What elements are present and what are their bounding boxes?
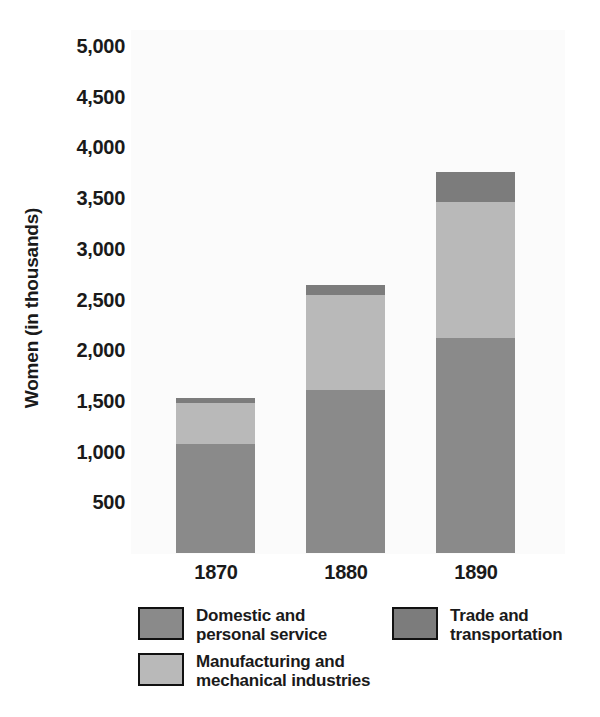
bar-segment bbox=[436, 202, 515, 338]
y-axis-tick-labels: 5,000 4,500 4,000 3,500 3,000 2,500 2,00… bbox=[40, 0, 125, 717]
bar-segment bbox=[176, 403, 255, 444]
legend-swatch-icon bbox=[138, 607, 184, 640]
bar-1870[interactable] bbox=[176, 398, 255, 553]
x-tick-label-1870: 1870 bbox=[146, 561, 286, 584]
plot-area bbox=[131, 30, 565, 554]
bar-segment bbox=[176, 398, 255, 403]
bar-segment bbox=[436, 338, 515, 553]
bar-segment bbox=[306, 390, 385, 553]
y-tick-label: 5,000 bbox=[40, 36, 125, 56]
y-tick-label: 1,500 bbox=[40, 391, 125, 411]
legend-item-domestic-and-personal-service[interactable]: Domestic and personal service bbox=[138, 606, 327, 644]
bar-segment bbox=[306, 285, 385, 295]
legend-swatch-icon bbox=[138, 653, 184, 686]
legend-item-manufacturing-and-mechanical-industries[interactable]: Manufacturing and mechanical industries bbox=[138, 652, 370, 690]
y-tick-label: 4,000 bbox=[40, 137, 125, 157]
y-tick-label: 4,500 bbox=[40, 87, 125, 107]
bar-segment bbox=[176, 444, 255, 553]
y-tick-label: 2,000 bbox=[40, 340, 125, 360]
y-tick-label: 3,500 bbox=[40, 188, 125, 208]
stacked-bar-chart: Women (in thousands) 5,000 4,500 4,000 3… bbox=[0, 0, 600, 717]
y-tick-label: 3,000 bbox=[40, 239, 125, 259]
bar-segment bbox=[436, 172, 515, 202]
legend-label: Manufacturing and mechanical industries bbox=[196, 652, 370, 690]
legend-swatch-icon bbox=[392, 607, 438, 640]
bar-1880[interactable] bbox=[306, 285, 385, 553]
y-tick-label: 2,500 bbox=[40, 290, 125, 310]
legend-label: Trade and transportation bbox=[450, 606, 562, 644]
legend-label: Domestic and personal service bbox=[196, 606, 327, 644]
legend-item-trade-and-transportation[interactable]: Trade and transportation bbox=[392, 606, 562, 644]
x-tick-label-1890: 1890 bbox=[406, 561, 546, 584]
chart-legend: Domestic and personal service Trade and … bbox=[138, 606, 578, 698]
y-tick-label: 500 bbox=[40, 492, 125, 512]
y-tick-label: 1,000 bbox=[40, 442, 125, 462]
x-tick-label-1880: 1880 bbox=[276, 561, 416, 584]
bar-segment bbox=[306, 295, 385, 390]
bar-1890[interactable] bbox=[436, 172, 515, 553]
